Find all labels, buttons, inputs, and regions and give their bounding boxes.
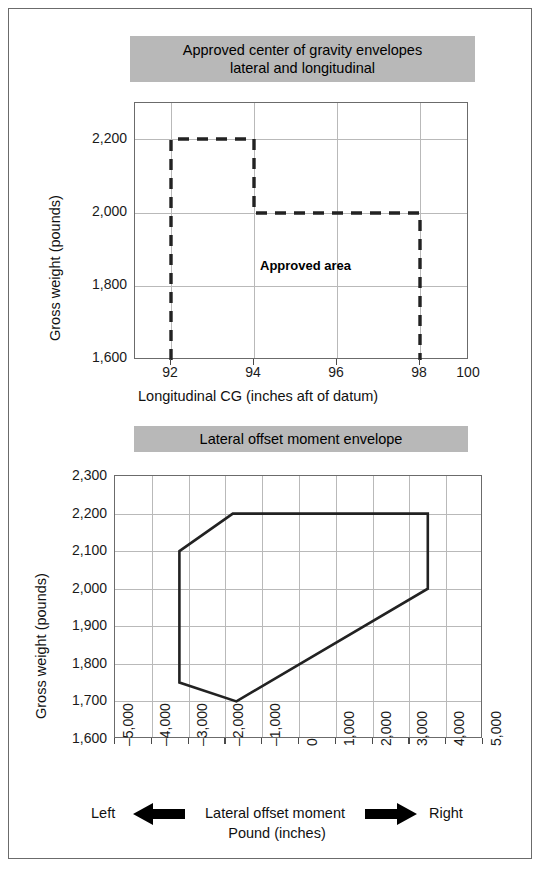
chart2-x-axis-label-line2: Pound (inches) — [205, 825, 349, 841]
chart2-xtickmark-4000 — [445, 738, 446, 744]
chart2-right-label: Right — [429, 805, 463, 821]
chart1-title-line1: Approved center of gravity envelopes — [183, 41, 422, 59]
chart1-xtick-100: 100 — [456, 364, 479, 380]
chart2-plot-area — [114, 475, 482, 738]
chart2-title: Lateral offset moment envelope — [200, 430, 403, 448]
chart2-xtickmark-2000 — [372, 738, 373, 744]
chart1-ytick-2000: 2,000 — [69, 203, 127, 219]
chart2-xtickmark--1000 — [261, 738, 262, 744]
chart2-ytick-2300: 2,300 — [49, 467, 107, 483]
chart2-left-label: Left — [91, 805, 115, 821]
chart2-xtick-3000: 3,000 — [414, 711, 430, 746]
chart1-y-axis-label: Gross weight (pounds) — [47, 195, 63, 341]
chart1-title-line2: lateral and longitudinal — [183, 59, 422, 77]
chart2-xtick-1000: 1,000 — [341, 711, 357, 746]
chart2-xtickmark--2000 — [224, 738, 225, 744]
chart2-xtick--2000: –2,000 — [230, 703, 246, 746]
chart2-xtick-5000: 5,000 — [488, 711, 504, 746]
chart2-ytick-2100: 2,100 — [49, 542, 107, 558]
chart2-xtick--5000: –5,000 — [120, 703, 136, 746]
chart2-xtick-0: 0 — [304, 738, 320, 746]
right-arrow-icon — [361, 803, 417, 825]
chart2-ytick-1900: 1,900 — [49, 617, 107, 633]
chart1-xtick-96: 96 — [328, 364, 344, 380]
chart1-plot-area: Approved area — [134, 102, 468, 359]
chart1-ytick-1800: 1,800 — [69, 276, 127, 292]
chart2-y-axis-label: Gross weight (pounds) — [33, 573, 49, 719]
figure-page: Approved center of gravity envelopes lat… — [0, 0, 542, 869]
chart2-xtickmark-0 — [298, 738, 299, 744]
chart2-xtick-2000: 2,000 — [378, 711, 394, 746]
chart2-xtickmark--5000 — [114, 738, 115, 744]
chart2-xtick--1000: –1,000 — [267, 703, 283, 746]
chart1-x-axis-label: Longitudinal CG (inches aft of datum) — [138, 388, 378, 404]
chart2-ytick-2200: 2,200 — [49, 505, 107, 521]
chart2-xtickmark--4000 — [151, 738, 152, 744]
left-arrow-icon — [133, 803, 189, 825]
chart2-xtick--4000: –4,000 — [157, 703, 173, 746]
chart1-approved-area-label: Approved area — [260, 258, 351, 273]
chart2-ytick-1600: 1,600 — [49, 730, 107, 746]
chart1-ytick-2200: 2,200 — [69, 130, 127, 146]
chart2-ytick-1800: 1,800 — [49, 655, 107, 671]
chart2-ytick-2000: 2,000 — [49, 580, 107, 596]
chart2-xtickmark--3000 — [188, 738, 189, 744]
chart2-xtickmark-3000 — [408, 738, 409, 744]
chart2-title-band: Lateral offset moment envelope — [134, 426, 468, 452]
chart1-title-band: Approved center of gravity envelopes lat… — [130, 36, 475, 82]
chart2-x-axis-label-line1: Lateral offset moment — [205, 805, 345, 821]
chart1-envelope-svg — [135, 103, 469, 360]
chart2-xtickmark-5000 — [482, 738, 483, 744]
chart1-xtick-94: 94 — [245, 364, 261, 380]
chart2-envelope-svg — [115, 476, 483, 739]
chart1-xtick-92: 92 — [162, 364, 178, 380]
chart2-ytick-1700: 1,700 — [49, 692, 107, 708]
chart1-ytick-1600: 1,600 — [69, 349, 127, 365]
chart2-xtick-4000: 4,000 — [451, 711, 467, 746]
chart1-xtick-98: 98 — [411, 364, 427, 380]
figure-border: Approved center of gravity envelopes lat… — [8, 8, 532, 859]
chart2-xtick--3000: –3,000 — [194, 703, 210, 746]
chart2-xtickmark-1000 — [335, 738, 336, 744]
